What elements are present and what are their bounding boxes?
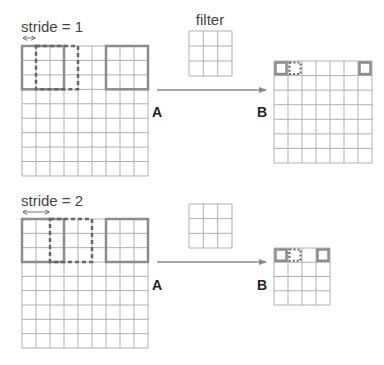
filter-window-solid [106, 46, 148, 89]
output-cell-solid [360, 63, 371, 75]
input-label: A [152, 277, 162, 293]
filter-window-solid [106, 219, 148, 262]
stride-label: stride = 1 [21, 18, 83, 35]
panel-stride-2: stride = 2 A B [21, 192, 330, 348]
filter-grid [189, 31, 232, 76]
convolution-stride-diagram: stride = 1 filter A B stride = 2 A B [0, 0, 384, 365]
panel-stride-1: stride = 1 filter A B [21, 11, 372, 176]
input-grid-a [22, 46, 148, 176]
output-grid-b [274, 248, 330, 305]
output-label: B [257, 277, 267, 293]
filter-window-solid [22, 46, 64, 89]
input-label: A [152, 104, 162, 120]
output-cell-dashed [290, 63, 301, 75]
output-label: B [257, 104, 267, 120]
output-cell-dashed [290, 250, 301, 261]
filter-grid [189, 204, 232, 248]
output-cell-solid [276, 250, 287, 261]
filter-window-solid [22, 219, 64, 262]
filter-window-dashed [36, 46, 78, 89]
input-grid-a [22, 219, 148, 348]
filter-window-dashed [50, 219, 92, 262]
stride-label: stride = 2 [21, 192, 83, 209]
output-cell-solid [276, 63, 287, 75]
output-grid-b [274, 61, 372, 163]
output-cell-solid [318, 250, 329, 261]
filter-label: filter [196, 11, 224, 28]
